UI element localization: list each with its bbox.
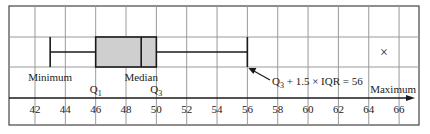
x-tick-label: 48	[121, 103, 133, 115]
outlier-marker-icon: ×	[380, 45, 388, 60]
x-tick-label: 52	[181, 103, 192, 115]
label-maximum: Maximum	[370, 83, 416, 95]
annotations: MinimumQ1MedianQ3MaximumQ3 + 1.5 × IQR =…	[28, 68, 416, 98]
annotation-arrowhead-icon	[248, 68, 256, 74]
x-tick-label: 54	[212, 103, 224, 115]
label-median: Median	[124, 71, 158, 83]
x-tick-label: 64	[363, 103, 375, 115]
label-minimum: Minimum	[28, 71, 72, 83]
box-and-whiskers: ×	[50, 37, 388, 67]
x-tick-label: 60	[303, 103, 315, 115]
x-tick-label: 66	[394, 103, 406, 115]
box-plot-chart: 42444648505254565860626466 × MinimumQ1Me…	[0, 0, 430, 134]
x-tick-label: 56	[242, 103, 254, 115]
axis-arrow-icon	[406, 95, 415, 101]
x-tick-label: 44	[60, 103, 72, 115]
x-tick-label: 58	[272, 103, 284, 115]
x-tick-label: 50	[151, 103, 163, 115]
x-tick-label: 62	[333, 103, 344, 115]
iqr-box	[96, 37, 157, 67]
annotation-upper-fence: Q3 + 1.5 × IQR = 56	[272, 75, 363, 90]
x-axis: 42444648505254565860626466	[9, 95, 415, 115]
x-tick-label: 46	[90, 103, 102, 115]
x-tick-label: 42	[30, 103, 41, 115]
